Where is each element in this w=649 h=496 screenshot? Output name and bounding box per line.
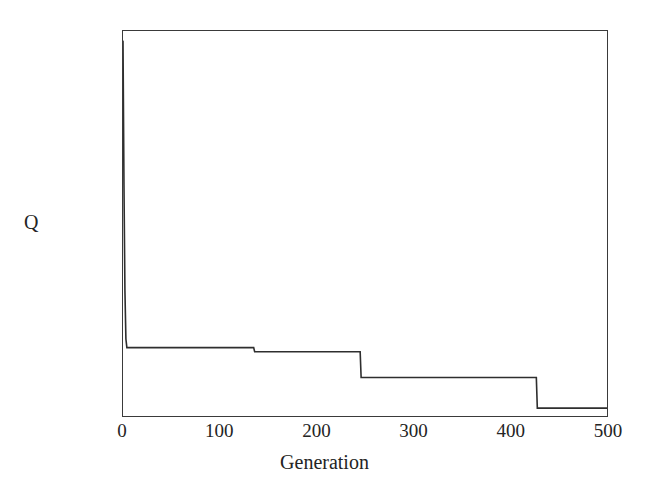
x-tick-label: 500 — [594, 421, 623, 440]
y-axis-title: Q — [24, 212, 38, 232]
x-tick-label: 200 — [302, 421, 331, 440]
x-tick-label: 300 — [399, 421, 428, 440]
x-tick-label: 100 — [205, 421, 234, 440]
plot-area — [122, 30, 608, 417]
x-tick-label: 400 — [497, 421, 526, 440]
data-line-svg — [123, 31, 607, 416]
series-line-q — [123, 41, 607, 408]
x-axis-title: Generation — [0, 452, 649, 472]
figure-canvas: Q 0.0540.05450.0550.05550.0560.05650.057… — [0, 0, 649, 496]
x-tick-label: 0 — [117, 421, 127, 440]
